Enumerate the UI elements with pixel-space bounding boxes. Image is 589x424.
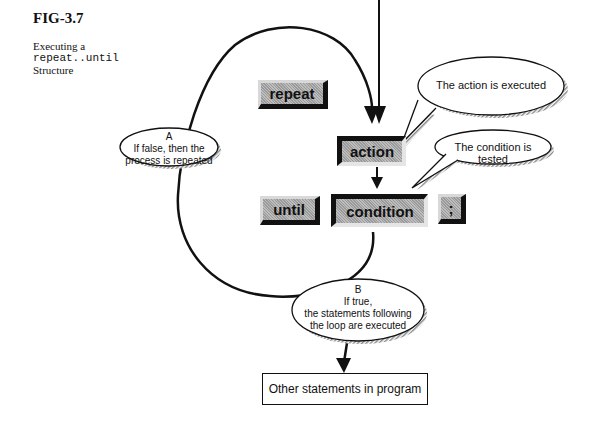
callout-a-label: A xyxy=(120,131,218,143)
keyword-repeat: repeat xyxy=(258,80,328,109)
callout-a-line-2: process is repeated xyxy=(120,155,218,167)
callout-action-text: The action is executed xyxy=(428,79,554,91)
callout-b-label: B xyxy=(293,284,423,296)
callout-b-line-1: If true, xyxy=(293,296,423,308)
callout-b-line-3: the loop are executed xyxy=(293,320,423,332)
callout-condition-text: The condition is tested xyxy=(440,141,546,165)
callout-b-text: B If true, the statements following the … xyxy=(293,284,423,332)
keyword-condition: condition xyxy=(331,194,428,227)
arrowhead-exit-icon xyxy=(336,358,351,373)
callout-a-line-1: If false, then the xyxy=(120,143,218,155)
keyword-semicolon: ; xyxy=(438,194,466,224)
arrowhead-condition-icon xyxy=(371,177,383,189)
callout-b-line-2: the statements following xyxy=(293,308,423,320)
callout-a-text: A If false, then the process is repeated xyxy=(120,131,218,167)
other-statements-box: Other statements in program xyxy=(262,373,428,405)
keyword-until: until xyxy=(260,196,320,225)
callout-action-pointer xyxy=(402,100,436,143)
keyword-action: action xyxy=(337,136,406,166)
